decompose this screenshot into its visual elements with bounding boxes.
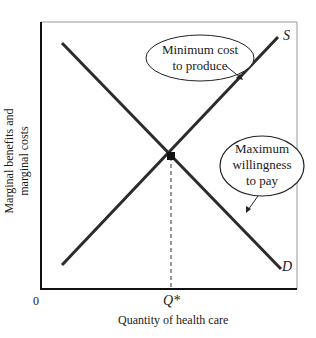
equilibrium-point (167, 152, 175, 160)
origin-label: 0 (33, 294, 39, 309)
callout-cost-line1: Minimum cost (160, 42, 240, 58)
demand-curve-label: D (282, 259, 292, 275)
qstar-label: Q* (163, 293, 180, 309)
y-axis-label: Marginal benefits and marginal costs (2, 86, 32, 236)
callout-wtp-arrow (248, 196, 258, 210)
callout-wtp-text: Maximum willingness to pay (222, 141, 302, 189)
callout-cost-text: Minimum cost to produce (160, 42, 240, 74)
callout-wtp-line1: Maximum (222, 141, 302, 157)
callout-wtp-line3: to pay (222, 173, 302, 189)
supply-curve-label: S (283, 28, 290, 44)
callout-cost-line2: to produce (160, 58, 240, 74)
callout-wtp-line2: willingness (222, 157, 302, 173)
x-axis-label: Quantity of health care (118, 313, 228, 328)
